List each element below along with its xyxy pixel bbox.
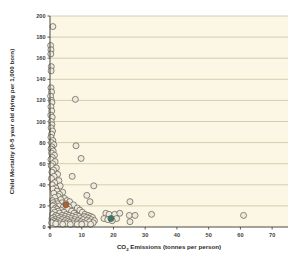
x-title-rest: Emissions (tonnes per person) bbox=[129, 243, 222, 250]
data-point bbox=[48, 68, 54, 74]
data-point bbox=[126, 212, 132, 218]
y-tick-label: 0 bbox=[42, 224, 45, 230]
x-tick-label: 60 bbox=[237, 232, 243, 238]
x-tick-label: 40 bbox=[174, 232, 180, 238]
x-tick-label: 10 bbox=[79, 232, 85, 238]
data-point bbox=[108, 216, 114, 222]
x-tick-label: 0 bbox=[48, 232, 51, 238]
data-point bbox=[91, 183, 97, 189]
data-point bbox=[79, 221, 85, 227]
y-tick-label: 40 bbox=[39, 182, 45, 188]
data-point bbox=[127, 219, 133, 225]
y-axis-title: Child Mortality (0-5 year old dying per … bbox=[8, 49, 15, 194]
data-point bbox=[53, 221, 59, 227]
x-tick-label: 70 bbox=[269, 232, 275, 238]
data-point bbox=[60, 221, 66, 227]
data-point bbox=[87, 199, 93, 205]
data-point bbox=[117, 210, 123, 216]
y-tick-label: 180 bbox=[36, 34, 45, 40]
y-tick-label: 60 bbox=[39, 161, 45, 167]
y-tick-label: 80 bbox=[39, 140, 45, 146]
data-point bbox=[241, 212, 247, 218]
data-point bbox=[88, 221, 94, 227]
data-point bbox=[67, 221, 73, 227]
y-tick-label: 100 bbox=[36, 119, 45, 125]
y-tick-label: 160 bbox=[36, 55, 45, 61]
y-tick-label: 20 bbox=[39, 203, 45, 209]
data-point bbox=[127, 199, 133, 205]
data-point bbox=[78, 155, 84, 161]
x-tick-label: 50 bbox=[206, 232, 212, 238]
data-point bbox=[72, 96, 78, 102]
data-point bbox=[73, 143, 79, 149]
scatter-chart: 020406080100120140160180200 010203040506… bbox=[0, 0, 296, 270]
data-point bbox=[48, 51, 54, 57]
x-tick-label: 30 bbox=[142, 232, 148, 238]
data-point bbox=[149, 211, 155, 217]
y-tick-label: 140 bbox=[36, 76, 45, 82]
data-point bbox=[132, 212, 138, 218]
data-point bbox=[84, 192, 90, 198]
data-point bbox=[50, 24, 56, 30]
x-title-co: CO bbox=[117, 243, 126, 250]
data-point bbox=[69, 173, 75, 179]
y-tick-label: 120 bbox=[36, 97, 45, 103]
chart-svg: 020406080100120140160180200 010203040506… bbox=[0, 0, 296, 270]
x-tick-label: 20 bbox=[110, 232, 116, 238]
y-tick-label: 200 bbox=[36, 13, 45, 19]
data-point bbox=[63, 202, 69, 208]
